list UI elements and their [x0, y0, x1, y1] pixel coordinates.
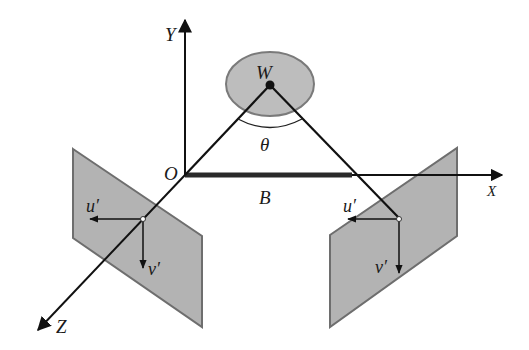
diagram-svg: Y X Z O W θ B u′ v′ u′ v′: [0, 0, 529, 350]
right-u-label: u′: [343, 196, 357, 216]
angle-arc: [238, 119, 302, 128]
right-principal-point: [397, 217, 402, 222]
left-u-label: u′: [86, 196, 100, 216]
right-v-label: v′: [375, 257, 388, 277]
ray-right: [270, 85, 399, 218]
baseline-label: B: [259, 187, 271, 208]
x-axis-label: X: [486, 183, 497, 199]
z-axis-label: Z: [56, 316, 67, 337]
origin-label: O: [164, 163, 178, 184]
y-axis-label: Y: [165, 24, 178, 45]
left-v-label: v′: [148, 259, 161, 279]
left-image-plane: [73, 149, 202, 327]
left-principal-point: [141, 217, 146, 222]
stereo-vision-diagram: Y X Z O W θ B u′ v′ u′ v′: [0, 0, 529, 350]
angle-label: θ: [260, 134, 269, 155]
object-point-label: W: [256, 62, 274, 83]
ray-left: [185, 85, 270, 175]
